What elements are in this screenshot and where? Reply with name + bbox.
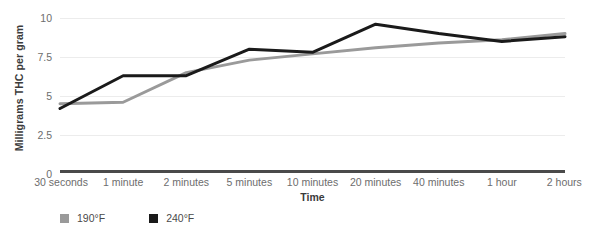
x-axis-tick-label: 2 minutes	[163, 175, 209, 189]
series-lines	[60, 18, 565, 174]
legend-label: 240°F	[166, 212, 194, 224]
line-chart: Milligrams THC per gram 02.557.510 30 se…	[0, 0, 599, 236]
x-axis-tick-labels: 30 seconds1 minute2 minutes5 minutes10 m…	[60, 175, 565, 191]
y-axis-tick-label: 10	[4, 12, 52, 24]
x-axis-tick-label: 20 minutes	[350, 175, 401, 189]
x-axis-line	[60, 170, 565, 173]
x-axis-title: Time	[60, 190, 565, 204]
chart-legend: 190°F240°F	[60, 210, 238, 226]
y-axis-tick-label: 7.5	[4, 51, 52, 63]
series-line-190f	[60, 34, 565, 104]
legend-swatch-icon	[60, 214, 69, 223]
x-axis-tick-label: 10 minutes	[287, 175, 338, 189]
legend-swatch-icon	[149, 214, 158, 223]
x-axis-tick-label: 30 seconds	[34, 175, 88, 189]
x-axis-tick-label: 1 minute	[103, 175, 143, 189]
legend-item[interactable]: 190°F	[60, 212, 105, 224]
plot-area	[60, 18, 565, 174]
x-axis-tick-label: 5 minutes	[227, 175, 273, 189]
y-axis-tick-label: 2.5	[4, 129, 52, 141]
x-axis-tick-label: 40 minutes	[413, 175, 464, 189]
y-axis-tick-labels: 02.557.510	[0, 0, 52, 236]
x-axis-tick-label: 1 hour	[487, 175, 517, 189]
x-axis-tick-label: 2 hours	[547, 175, 582, 189]
legend-label: 190°F	[77, 212, 105, 224]
legend-item[interactable]: 240°F	[149, 212, 194, 224]
y-axis-tick-label: 5	[4, 90, 52, 102]
